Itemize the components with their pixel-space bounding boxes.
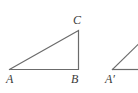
vertex-label-a-text: A [6,72,13,86]
vertex-label-a: A [6,73,13,85]
geometry-figure-canvas [0,0,138,93]
vertex-label-a-prime-mark: ′ [112,72,115,86]
figure-background [0,0,138,93]
vertex-label-b-text: B [71,72,78,86]
geometry-figure: C A B A′ [0,0,138,93]
vertex-label-b: B [71,73,78,85]
vertex-label-c: C [73,14,81,26]
vertex-label-a-prime: A′ [105,73,115,85]
vertex-label-c-text: C [73,13,81,27]
